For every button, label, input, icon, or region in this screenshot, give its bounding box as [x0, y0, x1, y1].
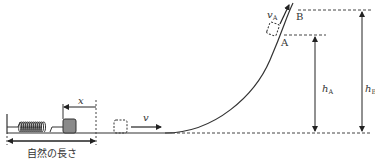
point-A-label: A	[280, 37, 289, 48]
block	[63, 119, 76, 133]
hB-label: hB	[365, 83, 375, 96]
physics-diagram: x 自然の長さ v vA A B hA hB	[0, 0, 375, 165]
v-label: v	[143, 112, 149, 123]
curved-ramp	[165, 3, 293, 133]
block-at-A-ghost	[266, 22, 280, 37]
natural-length-label: 自然の長さ	[27, 147, 77, 159]
spring	[7, 122, 63, 132]
x-label: x	[78, 95, 84, 106]
point-B-label: B	[296, 11, 303, 22]
moving-block-ghost	[114, 120, 127, 133]
vA-label: vA	[267, 9, 278, 22]
hA-label: hA	[322, 83, 333, 96]
